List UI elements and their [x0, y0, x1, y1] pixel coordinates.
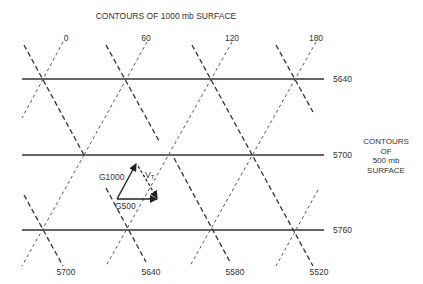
vt-label: VT: [145, 170, 155, 180]
bottom-label-5700: 5700: [57, 267, 76, 277]
top-label-60: 60: [141, 33, 151, 43]
diagram-title: CONTOURS OF 1000 mb SURFACE: [96, 11, 237, 21]
contour-label-5760: 5760: [333, 225, 352, 235]
top-label-0: 0: [64, 33, 69, 43]
svg-text:SURFACE: SURFACE: [367, 166, 405, 175]
g500-label: G500: [115, 201, 136, 211]
svg-text:500 mb: 500 mb: [373, 156, 400, 165]
horizontal-contours: [22, 79, 324, 230]
bottom-label-5580: 5580: [226, 267, 245, 277]
dashed-contours-up: [22, 42, 318, 266]
g1000-label: G1000: [99, 172, 125, 182]
vector-triangle: G1000 G500 VT: [99, 164, 157, 211]
bottom-labels: 5700 5640 5580 5520: [57, 267, 329, 277]
top-labels: 0 60 120 180: [64, 33, 324, 43]
contour-label-5640: 5640: [333, 74, 352, 84]
svg-text:CONTOURS: CONTOURS: [363, 137, 409, 146]
svg-text:OF: OF: [380, 147, 391, 156]
side-label: CONTOURS OF 500 mb SURFACE: [363, 137, 409, 175]
contour-diagram: CONTOURS OF 1000 mb SURFACE 0 60 120 180…: [0, 0, 423, 284]
bottom-label-5640: 5640: [142, 267, 161, 277]
horizontal-contour-labels: 5640 5700 5760: [333, 74, 352, 235]
top-label-120: 120: [225, 33, 239, 43]
bottom-label-5520: 5520: [310, 267, 329, 277]
contour-label-5700: 5700: [333, 150, 352, 160]
top-label-180: 180: [309, 33, 323, 43]
